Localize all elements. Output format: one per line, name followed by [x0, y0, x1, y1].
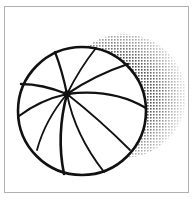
- ball-icon: [18, 47, 146, 175]
- beach-ball-illustration: [0, 0, 194, 200]
